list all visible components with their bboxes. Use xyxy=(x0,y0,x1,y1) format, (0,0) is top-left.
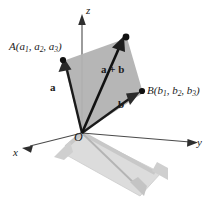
axis-x-arrowhead xyxy=(22,146,33,153)
axis-x-label: x xyxy=(13,147,18,158)
point-A-plus-B-dot xyxy=(123,34,130,41)
vector-b-label: b xyxy=(118,99,124,110)
vector-a-plus-b-label: a + b xyxy=(101,64,124,75)
point-B-label: B(b1, b2, b3) xyxy=(147,85,200,96)
point-B-dot xyxy=(139,88,145,94)
point-A-label: A(a1, a2, a3) xyxy=(9,41,62,52)
vector-a-label: a xyxy=(50,82,56,93)
axis-z-label: z xyxy=(86,5,90,16)
point-A-dot xyxy=(60,57,66,63)
axis-y-label: y xyxy=(197,137,202,148)
axis-z-arrowhead xyxy=(78,14,86,25)
vector-b-arrowhead xyxy=(126,92,140,105)
projection-parallelogram-group xyxy=(54,133,168,196)
origin-label: O xyxy=(74,131,83,143)
vector-addition-diagram xyxy=(0,0,213,201)
